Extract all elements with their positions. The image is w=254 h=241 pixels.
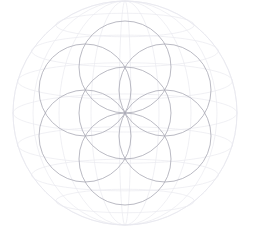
sphere-latitude-line-0 (56, 13, 195, 37)
flower-of-life-svg (0, 0, 254, 241)
sphere-latitude-line-6 (56, 189, 195, 213)
sphere-latitude-line-1 (32, 35, 219, 67)
figure-canvas (0, 0, 254, 241)
sphere-latitude-line-5 (32, 159, 219, 191)
seed-circles-group (39, 21, 211, 205)
